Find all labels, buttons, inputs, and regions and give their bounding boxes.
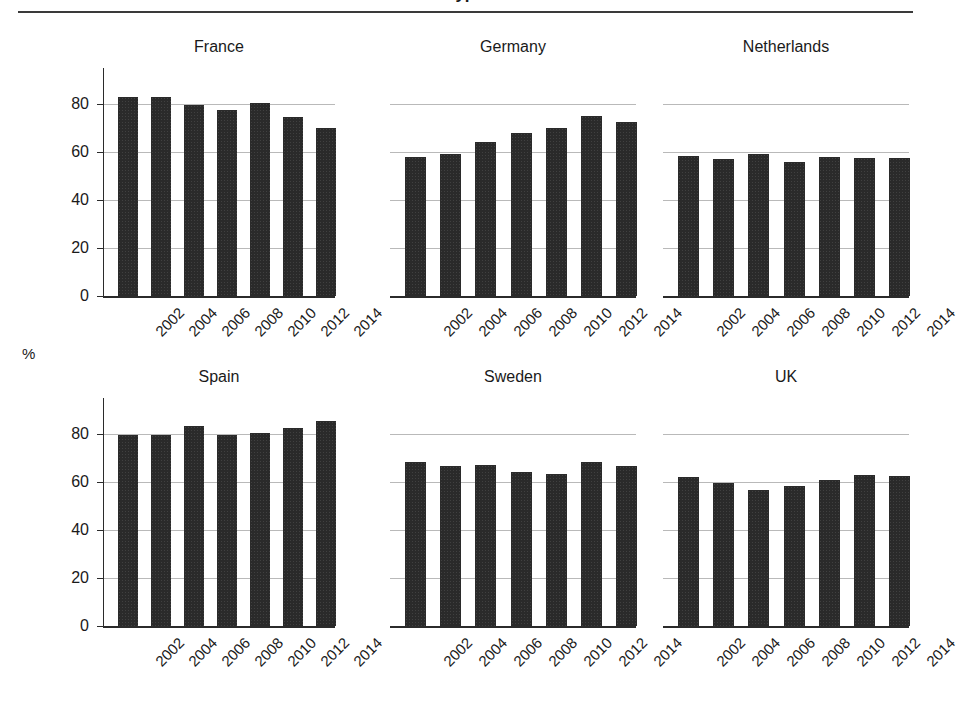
x-tick-label-2004: 2004 (475, 634, 511, 670)
x-axis-baseline (390, 296, 636, 298)
x-tick-label-2014: 2014 (350, 634, 386, 670)
x-tick-label-2010: 2010 (580, 304, 616, 340)
plot-area: 020406080 (103, 68, 335, 296)
x-tick-label-2002: 2002 (440, 304, 476, 340)
panel-germany: Germany2002200420062008201020122014 (390, 38, 636, 366)
x-tick-label-2012: 2012 (615, 634, 651, 670)
x-axis-baseline (103, 626, 335, 628)
bar-2012 (854, 158, 875, 296)
x-tick-label-2008: 2008 (545, 304, 581, 340)
panel-title: Spain (103, 368, 335, 386)
x-tick-label-2012: 2012 (317, 634, 353, 670)
panel-title: UK (663, 368, 909, 386)
x-tick-label-2008: 2008 (818, 634, 854, 670)
bar-2004 (440, 466, 461, 626)
bar-series (663, 68, 909, 296)
bar-2008 (511, 472, 532, 626)
x-tick-label-2014: 2014 (923, 634, 958, 670)
bar-series (103, 398, 335, 626)
bar-2006 (184, 426, 204, 626)
x-tick-label-2006: 2006 (218, 304, 254, 340)
y-tick-label-60: 60 (71, 143, 89, 161)
panel-title: Germany (390, 38, 636, 56)
y-tick-label-20: 20 (71, 239, 89, 257)
bar-2006 (748, 490, 769, 626)
bar-2010 (546, 474, 567, 626)
x-tick-label-2012: 2012 (317, 304, 353, 340)
bar-2006 (475, 465, 496, 626)
plot-area (390, 68, 636, 296)
y-tick-label-40: 40 (71, 191, 89, 209)
y-tick-0 (97, 296, 103, 297)
bar-2004 (713, 159, 734, 296)
bar-2004 (151, 435, 171, 626)
bar-2014 (889, 158, 910, 296)
x-tick-label-2008: 2008 (818, 304, 854, 340)
x-tick-label-2002: 2002 (713, 634, 749, 670)
bar-2014 (889, 476, 910, 626)
bar-2010 (250, 433, 270, 626)
y-tick-label-60: 60 (71, 473, 89, 491)
bar-2004 (713, 483, 734, 626)
x-tick-label-2010: 2010 (580, 634, 616, 670)
bar-2010 (819, 157, 840, 296)
x-tick-label-2002: 2002 (152, 634, 188, 670)
bar-2010 (546, 128, 567, 296)
x-tick-label-2006: 2006 (783, 634, 819, 670)
bar-2012 (854, 475, 875, 626)
bar-2014 (316, 128, 336, 296)
bar-2012 (581, 462, 602, 626)
bar-2008 (784, 162, 805, 296)
panel-title: Netherlands (663, 38, 909, 56)
bar-2010 (250, 103, 270, 296)
x-tick-label-2002: 2002 (152, 304, 188, 340)
bar-2008 (217, 435, 237, 626)
x-tick-label-2014: 2014 (923, 304, 958, 340)
panel-spain: Spain02040608020022004200620082010201220… (103, 368, 335, 696)
x-tick-label-2002: 2002 (440, 634, 476, 670)
bar-series (663, 398, 909, 626)
bar-2006 (748, 154, 769, 296)
x-tick-label-2014: 2014 (350, 304, 386, 340)
y-tick-label-20: 20 (71, 569, 89, 587)
bar-2014 (616, 122, 637, 296)
y-tick-label-80: 80 (71, 425, 89, 443)
panel-title: France (103, 38, 335, 56)
bar-2012 (283, 428, 303, 626)
x-tick-label-2008: 2008 (251, 304, 287, 340)
x-axis-baseline (103, 296, 335, 298)
x-tick-label-2002: 2002 (713, 304, 749, 340)
bar-series (103, 68, 335, 296)
bar-2012 (283, 117, 303, 296)
header-rule (18, 11, 913, 13)
x-axis-baseline (390, 626, 636, 628)
y-tick-label-0: 0 (80, 617, 89, 635)
x-tick-label-2010: 2010 (853, 304, 889, 340)
plot-area (663, 68, 909, 296)
bar-2008 (784, 486, 805, 626)
x-tick-label-2010: 2010 (284, 304, 320, 340)
bar-2014 (316, 421, 336, 626)
bar-2004 (440, 154, 461, 296)
bar-series (390, 398, 636, 626)
bar-2012 (581, 116, 602, 296)
x-tick-label-2010: 2010 (284, 634, 320, 670)
x-tick-label-2006: 2006 (510, 304, 546, 340)
x-tick-label-2010: 2010 (853, 634, 889, 670)
x-tick-label-2004: 2004 (185, 304, 221, 340)
bar-2008 (511, 133, 532, 296)
x-tick-label-2008: 2008 (545, 634, 581, 670)
x-axis-baseline (663, 626, 909, 628)
bar-2006 (475, 142, 496, 296)
x-tick-label-2008: 2008 (251, 634, 287, 670)
y-tick-label-40: 40 (71, 521, 89, 539)
bar-2014 (616, 466, 637, 626)
bar-2002 (118, 97, 138, 296)
bar-2002 (405, 157, 426, 296)
plot-area: 020406080 (103, 398, 335, 626)
x-tick-label-2004: 2004 (748, 634, 784, 670)
y-axis-unit-label: % (22, 345, 35, 362)
bar-2010 (819, 480, 840, 626)
panel-title: Sweden (390, 368, 636, 386)
bar-2002 (405, 462, 426, 626)
